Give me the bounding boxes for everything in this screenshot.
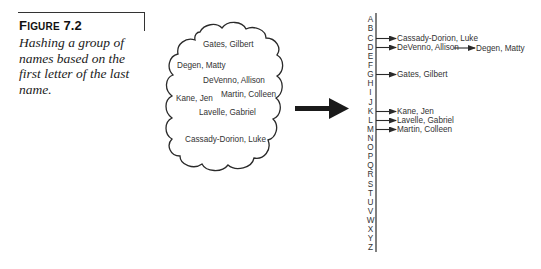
bucket-letter: M: [366, 125, 375, 134]
bucket-letter: S: [366, 180, 375, 189]
bucket-letter: E: [366, 52, 375, 61]
bucket-entry-k: Kane, Jen: [397, 107, 434, 116]
bucket-letter: B: [366, 24, 375, 33]
bucket-letter: U: [366, 198, 375, 207]
cloud-name: Lavelle, Gabriel: [199, 108, 256, 117]
cloud-name: Kane, Jen: [176, 94, 213, 103]
bucket-letter: D: [366, 43, 375, 52]
bucket-entry-m: Martin, Colleen: [397, 125, 452, 134]
bucket-letter: Q: [366, 161, 375, 170]
bucket-entry-d-1: DeVenno, Allison: [397, 43, 459, 52]
bucket-entry-g: Gates, Gilbert: [397, 70, 448, 79]
bucket-letter: W: [366, 216, 375, 225]
bucket-letter: O: [366, 143, 375, 152]
bucket-letter: X: [366, 225, 375, 234]
bucket-letter: K: [366, 107, 375, 116]
bucket-letter: R: [366, 170, 375, 179]
bucket-letter: Y: [366, 234, 375, 243]
cloud-name: Gates, Gilbert: [203, 40, 254, 49]
big-arrow-icon: [295, 98, 349, 119]
bucket-letter: F: [366, 61, 375, 70]
cloud-name: Martin, Colleen: [221, 90, 276, 99]
bucket-letter: Z: [366, 243, 375, 252]
bucket-entry-d-2: Degen, Matty: [476, 44, 525, 53]
bucket-letter: N: [366, 134, 375, 143]
cloud-name: Degen, Matty: [177, 61, 226, 70]
cloud-name: Cassady-Dorion, Luke: [185, 135, 266, 144]
bucket-letter: C: [366, 34, 375, 43]
bucket-letter: L: [366, 116, 375, 125]
cloud-name: DeVenno, Allison: [203, 76, 265, 85]
bucket-letter: G: [366, 70, 375, 79]
bucket-letter: I: [366, 88, 375, 97]
bucket-letter: J: [366, 98, 375, 107]
bucket-letter: T: [366, 189, 375, 198]
bucket-entry-l: Lavelle, Gabriel: [397, 116, 454, 125]
bucket-letter: P: [366, 152, 375, 161]
bucket-entry-c: Cassady-Dorion, Luke: [397, 34, 478, 43]
bucket-letter: H: [366, 79, 375, 88]
bucket-letter: A: [366, 15, 375, 24]
bucket-letter: V: [366, 207, 375, 216]
